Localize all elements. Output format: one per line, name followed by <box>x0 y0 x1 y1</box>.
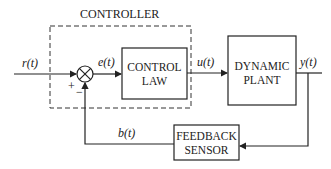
reference-label: r(t) <box>22 56 38 70</box>
control-law-line2: LAW <box>142 75 167 87</box>
control-loop-diagram: CONTROLLER r(t) + − e(t) CONTROL LAW u(t… <box>0 0 331 169</box>
output-label: y(t) <box>299 55 317 69</box>
sensor-line2: SENSOR <box>184 144 228 156</box>
summing-junction <box>77 66 93 82</box>
feedback-label: b(t) <box>118 126 135 140</box>
plant-line2: PLANT <box>243 74 280 86</box>
sensor-line1: FEEDBACK <box>176 130 237 142</box>
control-signal-label: u(t) <box>197 55 214 69</box>
plus-sign: + <box>68 79 75 93</box>
error-label: e(t) <box>98 55 115 69</box>
control-law-line1: CONTROL <box>127 61 181 73</box>
plant-line1: DYNAMIC <box>235 60 290 72</box>
controller-label: CONTROLLER <box>80 7 159 21</box>
minus-sign: − <box>76 85 83 99</box>
control-law-block <box>122 48 187 99</box>
